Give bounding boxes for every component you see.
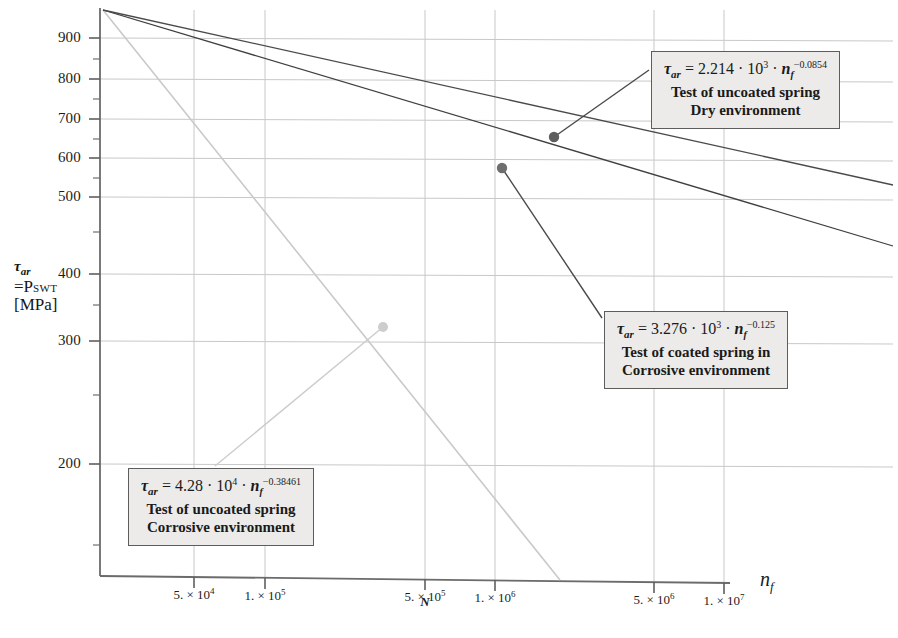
- y-tick-label-300: 300: [33, 332, 81, 349]
- y-tick-label-700: 700: [33, 110, 81, 127]
- gridline-500: [100, 197, 893, 200]
- leader-line-coated: [502, 168, 602, 318]
- callout-coated-corrosive[interactable]: τar = 3.276 · 103 · nf−0.125 Test of coa…: [604, 311, 788, 389]
- data-point-uncoated-corrosive: [378, 322, 388, 332]
- data-point-dry: [549, 132, 559, 142]
- callout-line-1: Test of coated spring in: [617, 344, 775, 362]
- callout-line-2: Corrosive environment: [141, 519, 301, 537]
- callout-line-1: Test of uncoated spring: [664, 84, 827, 102]
- x-tick-label-1e5: 1. × 105: [244, 587, 285, 604]
- y-axis-major-ticks: [89, 38, 100, 464]
- x-axis-secondary-label-N: N: [420, 594, 429, 610]
- gridline-200: [100, 464, 893, 467]
- y-tick-label-200: 200: [33, 455, 81, 472]
- callout-line-1: Test of uncoated spring: [141, 501, 301, 519]
- gridline-400: [100, 274, 893, 277]
- data-point-coated: [497, 163, 507, 173]
- x-tick-label-1e7: 1. × 107: [703, 592, 744, 609]
- gridline-900: [100, 38, 893, 41]
- x-tick-label-5e6: 5. × 106: [633, 591, 674, 608]
- y-tick-label-800: 800: [33, 70, 81, 87]
- callout-uncoated-corrosive[interactable]: τar = 4.28 · 104 · nf−0.38461 Test of un…: [128, 468, 314, 546]
- callout-line-2: Dry environment: [664, 102, 827, 120]
- callout-equation: τar = 3.276 · 103 · nf−0.125: [617, 319, 775, 341]
- callout-line-2: Corrosive environment: [617, 362, 775, 380]
- y-tick-label-600: 600: [33, 149, 81, 166]
- y-axis-title-pswt: =PSWT: [14, 278, 57, 296]
- callout-equation: τar = 2.214 · 103 · nf−0.0854: [664, 59, 827, 81]
- y-tick-label-900: 900: [33, 29, 81, 46]
- callout-uncoated-dry[interactable]: τar = 2.214 · 103 · nf−0.0854 Test of un…: [651, 51, 840, 129]
- chart-canvas: 900 800 700 600 500 400 300 200 τar =PSW…: [0, 0, 898, 638]
- x-tick-label-5e4: 5. × 104: [173, 586, 214, 603]
- callout-equation: τar = 4.28 · 104 · nf−0.38461: [141, 476, 301, 498]
- y-axis-minor-ticks: [93, 59, 100, 545]
- y-tick-label-500: 500: [33, 188, 81, 205]
- y-axis-title-tau: τar: [14, 258, 57, 278]
- y-axis-title-unit: [MPa]: [14, 296, 57, 314]
- leader-line-dry: [554, 70, 649, 137]
- x-axis-title: nf: [760, 568, 774, 595]
- y-axis-title: τar =PSWT [MPa]: [14, 258, 57, 315]
- x-tick-label-1e6: 1. × 106: [474, 589, 515, 606]
- leader-line-uncoated-corrosive: [215, 327, 383, 466]
